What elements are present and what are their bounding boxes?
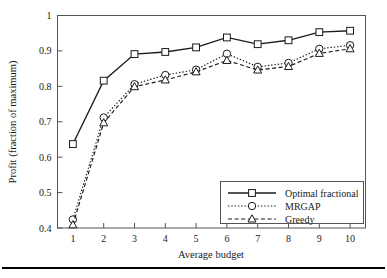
legend-label[interactable]: MRGAP bbox=[285, 201, 321, 212]
x-tick-label: 2 bbox=[101, 233, 106, 244]
y-tick-label: 1 bbox=[47, 10, 52, 21]
x-tick-label: 7 bbox=[255, 233, 260, 244]
x-tick-label: 3 bbox=[132, 233, 137, 244]
legend-marker bbox=[249, 190, 256, 197]
data-point bbox=[193, 44, 200, 51]
y-tick-label: 0.5 bbox=[39, 187, 52, 198]
y-axis-tick-labels: 0.40.50.60.70.80.91 bbox=[39, 10, 52, 234]
legend-label[interactable]: Optimal fractional bbox=[285, 188, 359, 199]
x-tick-label: 5 bbox=[194, 233, 199, 244]
data-point bbox=[100, 77, 107, 84]
series-1 bbox=[70, 27, 354, 147]
x-tick-label: 8 bbox=[286, 233, 291, 244]
y-axis-title: Profit (fraction of maximum) bbox=[7, 60, 19, 183]
y-tick-label: 0.9 bbox=[39, 45, 52, 56]
x-tick-label: 1 bbox=[70, 233, 75, 244]
line-chart: 0.40.50.60.70.80.91 12345678910 Average … bbox=[0, 0, 387, 278]
data-point bbox=[285, 37, 292, 44]
figure-container: 0.40.50.60.70.80.91 12345678910 Average … bbox=[0, 0, 387, 278]
x-axis-title: Average budget bbox=[178, 249, 244, 260]
y-tick-label: 0.4 bbox=[39, 223, 52, 234]
y-tick-label: 0.6 bbox=[39, 152, 52, 163]
x-axis-tick-labels: 12345678910 bbox=[70, 233, 355, 244]
y-tick-label: 0.7 bbox=[39, 116, 52, 127]
y-axis-ticks bbox=[58, 16, 63, 229]
data-point bbox=[70, 141, 77, 148]
y-tick-label: 0.8 bbox=[39, 81, 52, 92]
data-point bbox=[224, 34, 231, 41]
legend-marker bbox=[248, 202, 255, 209]
data-point bbox=[347, 27, 354, 34]
chart-legend[interactable]: Optimal fractionalMRGAPGreedy bbox=[221, 182, 364, 225]
series-line bbox=[73, 31, 350, 144]
data-point bbox=[162, 49, 169, 56]
x-tick-label: 4 bbox=[163, 233, 168, 244]
data-point bbox=[316, 29, 323, 36]
data-point bbox=[254, 41, 261, 48]
data-point bbox=[131, 51, 138, 58]
x-tick-label: 9 bbox=[317, 233, 322, 244]
x-tick-label: 10 bbox=[345, 233, 355, 244]
legend-label[interactable]: Greedy bbox=[285, 214, 314, 225]
x-tick-label: 6 bbox=[224, 233, 229, 244]
data-point bbox=[223, 56, 231, 63]
